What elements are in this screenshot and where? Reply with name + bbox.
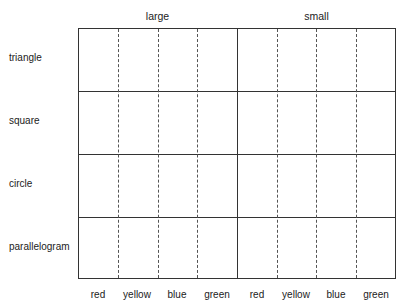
- column-divider: [158, 29, 159, 278]
- group-divider: [237, 29, 238, 278]
- column-divider: [197, 29, 198, 278]
- group-label-small: small: [237, 10, 396, 22]
- column-label-green: green: [197, 289, 237, 301]
- column-divider: [118, 29, 119, 278]
- column-label-red: red: [237, 289, 277, 301]
- column-label-yellow: yellow: [117, 289, 157, 301]
- row-label-circle: circle: [9, 178, 32, 190]
- row-label-triangle: triangle: [9, 52, 42, 64]
- column-label-blue: blue: [316, 289, 356, 301]
- column-divider: [316, 29, 317, 278]
- column-label-green: green: [356, 289, 396, 301]
- group-label-large: large: [78, 10, 237, 22]
- column-label-yellow: yellow: [276, 289, 316, 301]
- column-divider: [277, 29, 278, 278]
- classification-grid: [78, 28, 396, 279]
- column-label-red: red: [78, 289, 118, 301]
- row-label-square: square: [9, 115, 40, 127]
- column-divider: [356, 29, 357, 278]
- column-label-blue: blue: [157, 289, 197, 301]
- row-label-parallelogram: parallelogram: [9, 241, 70, 253]
